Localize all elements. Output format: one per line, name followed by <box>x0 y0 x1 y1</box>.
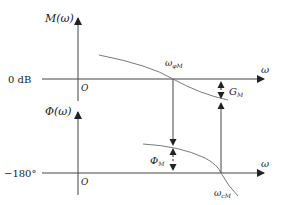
projection-arrow-up-icon <box>218 102 225 109</box>
phase-origin-label: O <box>81 177 89 187</box>
projection-arrow-down-icon <box>170 139 177 146</box>
gain-margin-label: GM <box>229 86 244 98</box>
magnitude-origin-label: O <box>81 83 89 93</box>
phase-plot: Φ(ω) −180° O ω ωcM ΦM <box>4 105 269 199</box>
gain-margin-arrow-up-icon <box>218 81 225 88</box>
projection-lines <box>170 79 225 173</box>
magnitude-plot: M(ω) 0 dB O ω ωφM GM <box>8 12 269 101</box>
bode-margin-diagram: M(ω) 0 dB O ω ωφM GM Φ(ω) −180° O ω ωcM … <box>0 0 282 205</box>
phase-margin-arrow-up-icon <box>170 148 177 155</box>
magnitude-omega-label: ω <box>261 64 269 75</box>
magnitude-curve <box>99 55 228 100</box>
minus-180-label: −180° <box>4 168 36 179</box>
phase-margin-label: ΦM <box>150 155 165 167</box>
phase-omega-label: ω <box>261 158 269 169</box>
phase-margin-arrow-down-icon <box>170 164 177 171</box>
phase-crossover-label: ωcM <box>214 188 232 199</box>
phase-axis-label: Φ(ω) <box>45 105 72 118</box>
zero-db-label: 0 dB <box>8 74 31 85</box>
magnitude-axis-label: M(ω) <box>44 12 74 25</box>
phase-curve <box>143 144 238 196</box>
gain-crossover-label: ωφM <box>165 58 184 70</box>
